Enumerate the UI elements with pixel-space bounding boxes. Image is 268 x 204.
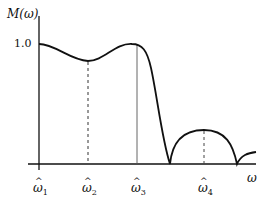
x-axis-label: ω [247,172,257,184]
x-tick-omega1: ^ω1 [33,182,48,199]
hat-accent: ^ [200,175,208,187]
y-tick-1-0: 1.0 [14,38,32,49]
hat-accent: ^ [84,175,92,187]
hat-accent: ^ [133,175,141,187]
y-axis-label: M(ω) [7,8,38,20]
subscript: 2 [92,188,97,197]
hat-accent: ^ [35,175,43,187]
x-tick-omega3: ^ω3 [131,182,146,199]
plot-area [0,0,268,204]
magnitude-curve [39,44,256,164]
subscript: 1 [43,188,48,197]
x-tick-omega4: ^ω4 [198,182,213,199]
x-tick-omega2: ^ω2 [82,182,97,199]
subscript: 3 [141,188,146,197]
subscript: 4 [208,188,213,197]
magnitude-response-diagram: M(ω) 1.0 ω ^ω1 ^ω2 ^ω3 ^ω4 [0,0,268,204]
